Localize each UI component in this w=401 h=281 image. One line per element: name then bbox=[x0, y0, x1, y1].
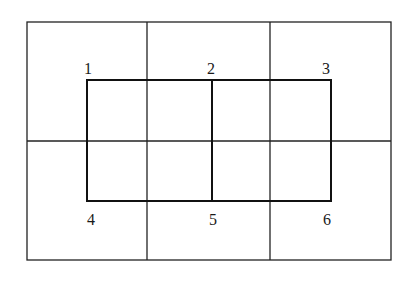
label-6: 6 bbox=[323, 211, 331, 228]
label-1: 1 bbox=[84, 60, 92, 77]
grid-diagram: 1 2 3 4 5 6 bbox=[0, 0, 401, 281]
label-4: 4 bbox=[87, 211, 95, 228]
label-3: 3 bbox=[322, 60, 330, 77]
label-5: 5 bbox=[209, 211, 217, 228]
point-labels: 1 2 3 4 5 6 bbox=[84, 60, 331, 228]
label-2: 2 bbox=[207, 60, 215, 77]
